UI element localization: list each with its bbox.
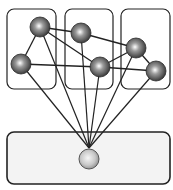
node-n4-icon xyxy=(90,57,110,77)
hub-node-icon xyxy=(79,149,99,169)
node-n3-icon xyxy=(71,23,91,43)
node-n6-icon xyxy=(146,61,166,81)
node-n2-icon xyxy=(11,54,31,74)
node-n1-icon xyxy=(30,17,50,37)
node-n5-icon xyxy=(126,38,146,58)
network-diagram xyxy=(0,0,173,190)
